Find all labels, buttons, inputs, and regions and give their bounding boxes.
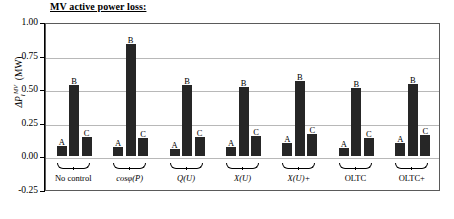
y-axis-tick-label: -0.25 [0, 185, 38, 195]
y-axis-tick [40, 191, 45, 192]
group-brace [226, 163, 259, 169]
y-axis-tick-label: 0.25 [0, 118, 38, 128]
bar-value-label: C [304, 125, 320, 135]
x-axis-group-label: OLTC+ [384, 173, 440, 183]
bar-value-label: C [248, 127, 264, 137]
x-axis-group-label: OLTC [327, 173, 383, 183]
x-axis-group-label: X(U) [214, 173, 270, 183]
bar-value-label: A [167, 140, 183, 150]
y-axis-tick-label: 1.00 [0, 17, 38, 27]
bar-value-label: B [405, 75, 421, 85]
bar-oltc--A [395, 143, 405, 156]
x-axis-group-label: Q(U) [158, 173, 214, 183]
bar-value-label: C [135, 129, 151, 139]
group-brace [339, 163, 372, 169]
y-axis-tick-label: 0.75 [0, 51, 38, 61]
bar-cos-p--B [126, 44, 136, 157]
x-axis-group-label: X(U)+ [271, 173, 327, 183]
gridline [46, 158, 439, 159]
group-brace [57, 163, 90, 169]
group-label-text: cosφ(P) [116, 173, 143, 183]
bar-value-label: C [79, 128, 95, 138]
bar-x-u--B [295, 81, 305, 156]
group-brace [170, 163, 203, 169]
bar-value-label: A [223, 138, 239, 148]
bar-cos-p--A [113, 147, 123, 156]
bar-value-label: A [392, 134, 408, 144]
group-label-text: Q(U) [177, 173, 195, 183]
bar-value-label: B [292, 72, 308, 82]
bar-value-label: A [336, 139, 352, 149]
bar-x-u--C [307, 134, 317, 156]
bar-q-u--A [170, 149, 180, 156]
bar-value-label: B [66, 76, 82, 86]
bar-oltc-B [351, 88, 361, 157]
group-label-text: X(U)+ [288, 173, 311, 183]
bar-no-control-C [82, 137, 92, 156]
y-axis-tick-label: 0.50 [0, 84, 38, 94]
bar-value-label: B [123, 35, 139, 45]
bar-value-label: A [279, 134, 295, 144]
bar-x-u--C [251, 136, 261, 156]
bar-oltc-A [339, 148, 349, 156]
chart-title: MV active power loss: [50, 1, 146, 12]
bar-x-u--A [282, 143, 292, 156]
bar-value-label: A [110, 138, 126, 148]
group-brace [113, 163, 146, 169]
bar-q-u--C [195, 137, 205, 156]
bar-value-label: C [361, 129, 377, 139]
bar-value-label: B [236, 78, 252, 88]
bar-oltc--C [420, 135, 430, 157]
bar-value-label: B [179, 76, 195, 86]
bar-no-control-B [69, 85, 79, 156]
bar-value-label: C [417, 126, 433, 136]
group-label-text: X(U) [234, 173, 251, 183]
bar-oltc--B [408, 84, 418, 157]
y-axis-tick-label: 0.00 [0, 151, 38, 161]
group-brace [282, 163, 315, 169]
bar-x-u--B [239, 87, 249, 157]
x-axis-group-label: cosφ(P) [101, 173, 157, 183]
bar-value-label: C [192, 128, 208, 138]
x-axis-group-label: No control [45, 173, 101, 183]
bar-value-label: B [348, 79, 364, 89]
bar-oltc-C [364, 138, 374, 157]
bar-value-label: A [54, 137, 70, 147]
group-brace [395, 163, 428, 169]
gridline [46, 58, 439, 59]
bar-no-control-A [57, 146, 67, 157]
bar-x-u--A [226, 147, 236, 156]
chart-figure: MV active power loss: ΔPlMV (MW) 1.000.7… [0, 0, 454, 219]
bar-cos-p--C [138, 138, 148, 156]
bar-q-u--B [182, 85, 192, 156]
